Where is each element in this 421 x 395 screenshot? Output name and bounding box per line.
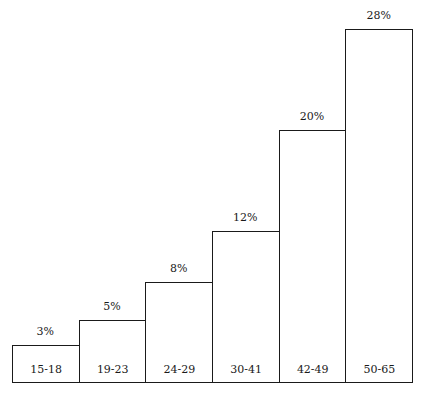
bar-24-29: 24-29 [145,282,213,383]
value-label: 28% [349,9,409,22]
category-label: 19-23 [80,363,146,376]
bar-15-18: 15-18 [12,345,80,383]
category-label: 15-18 [13,363,79,376]
category-label: 30-41 [213,363,279,376]
value-label: 5% [82,300,142,313]
category-label: 50-65 [346,363,412,376]
value-label: 3% [15,325,75,338]
value-label: 12% [215,211,275,224]
bar-19-23: 19-23 [79,320,147,383]
value-label: 20% [282,110,342,123]
bar-30-41: 30-41 [212,231,280,383]
value-label: 8% [149,262,209,275]
bar-42-49: 42-49 [279,130,347,383]
category-label: 24-29 [146,363,212,376]
category-label: 42-49 [280,363,346,376]
bar-50-65: 50-65 [345,29,413,383]
